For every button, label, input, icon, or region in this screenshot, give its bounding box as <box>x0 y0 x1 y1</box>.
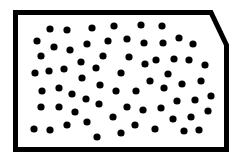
dot <box>46 25 53 32</box>
dot <box>152 56 159 63</box>
dot <box>92 64 99 71</box>
dot <box>104 37 111 44</box>
dot <box>139 106 146 113</box>
dot <box>30 125 37 132</box>
dot <box>109 113 116 120</box>
dot <box>117 69 124 76</box>
dot <box>83 40 90 47</box>
dot <box>38 87 45 94</box>
dot <box>191 96 198 103</box>
dot <box>204 107 211 114</box>
dot <box>195 126 202 133</box>
dot <box>158 22 165 29</box>
dot <box>46 126 53 133</box>
dot <box>78 74 85 81</box>
dot <box>170 55 177 62</box>
dot <box>95 100 102 107</box>
dot <box>55 103 62 110</box>
dot <box>37 103 44 110</box>
dot <box>160 84 167 91</box>
dot <box>125 53 132 60</box>
dot <box>180 127 187 134</box>
dot <box>146 77 153 84</box>
background <box>0 0 241 163</box>
dot <box>189 40 196 47</box>
dot <box>45 67 52 74</box>
dot <box>131 121 138 128</box>
dot <box>140 39 147 46</box>
dot <box>93 133 100 140</box>
dot <box>82 95 89 102</box>
dot <box>157 104 164 111</box>
dot <box>159 39 166 46</box>
dot <box>117 129 124 136</box>
dot <box>207 92 214 99</box>
dot <box>63 121 70 128</box>
dot <box>137 21 144 28</box>
dot <box>60 65 67 72</box>
dot <box>110 22 117 29</box>
dot <box>178 80 185 87</box>
dot <box>141 60 148 67</box>
dot <box>63 26 70 33</box>
dot <box>88 24 95 31</box>
dot <box>112 87 119 94</box>
dot <box>151 125 158 132</box>
dot <box>201 61 208 68</box>
dot <box>55 84 62 91</box>
dot <box>197 77 204 84</box>
dot-container-diagram <box>0 0 241 163</box>
dot <box>31 69 38 76</box>
dot <box>96 81 103 88</box>
dot <box>37 52 44 59</box>
dot <box>185 56 192 63</box>
dot <box>50 43 57 50</box>
dot <box>175 34 182 41</box>
dot <box>132 87 139 94</box>
dot <box>173 97 180 104</box>
dot <box>68 90 75 97</box>
dot <box>66 46 73 53</box>
dot <box>99 52 106 59</box>
dot <box>33 37 40 44</box>
dot <box>71 108 78 115</box>
dot <box>169 115 176 122</box>
dot <box>123 35 130 42</box>
dot <box>187 113 194 120</box>
dot <box>77 58 84 65</box>
dot <box>83 118 90 125</box>
dot <box>123 103 130 110</box>
dot <box>164 70 171 77</box>
